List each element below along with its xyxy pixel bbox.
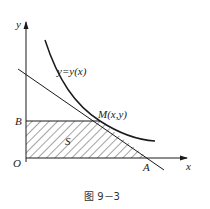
x-axis-label: x <box>185 160 191 172</box>
diagram-canvas: y x O B A M(x,y) y=y(x) S 图 9－3 <box>0 0 210 209</box>
y-axis-label: y <box>15 18 21 30</box>
point-b-label: B <box>15 115 22 127</box>
point-a-label: A <box>142 161 150 173</box>
point-m-label: M(x,y) <box>97 108 127 121</box>
curve-label: y=y(x) <box>56 65 87 78</box>
origin-label: O <box>13 157 21 169</box>
shaded-region-s <box>26 121 148 158</box>
region-s-label: S <box>65 135 71 147</box>
figure-caption: 图 9－3 <box>84 191 120 202</box>
